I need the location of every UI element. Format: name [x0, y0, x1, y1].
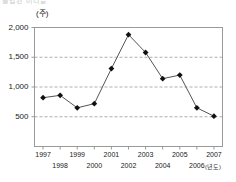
- x-axis-tick-label: 2001: [99, 151, 123, 159]
- plot-area-border: [35, 28, 223, 147]
- x-axis-tick-label: 1998: [48, 162, 72, 170]
- x-axis-tick-label: 2000: [82, 162, 106, 170]
- x-axis-tick-label: 2004: [151, 162, 175, 170]
- chart-page: 클립된 머리글 (주) 5001,0001,5002,000 199719981…: [0, 0, 236, 182]
- y-axis-tick-label: 500: [0, 112, 29, 121]
- x-axis-unit-label: (년도): [205, 163, 221, 171]
- x-axis-tick-label: 2007: [202, 151, 226, 159]
- line-chart: 5001,0001,5002,000 199719981999200020012…: [0, 0, 236, 182]
- x-axis-tick-label: 1997: [31, 151, 55, 159]
- y-axis-tick-label: 2,000: [0, 23, 29, 32]
- y-axis-tick-label: 1,000: [0, 82, 29, 91]
- x-axis-tick-label: 2003: [134, 151, 158, 159]
- x-axis-tick-label: 1999: [65, 151, 89, 159]
- plot-frame: [35, 28, 223, 147]
- x-axis-tick-label: 2002: [117, 162, 141, 170]
- x-axis-tick-label: 2005: [168, 151, 192, 159]
- y-axis-tick-label: 1,500: [0, 52, 29, 61]
